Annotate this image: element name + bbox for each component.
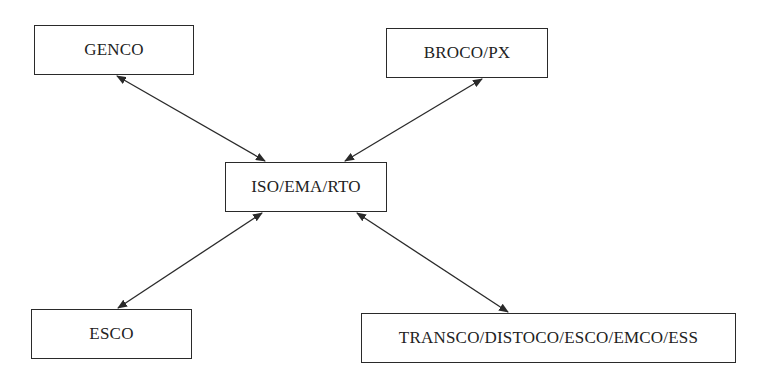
node-transco-group-label: TRANSCO/DISTOCO/ESCO/EMCO/ESS <box>399 328 698 348</box>
node-genco-label: GENCO <box>84 40 144 60</box>
edge-genco-iso <box>117 76 265 161</box>
diagram-canvas: GENCO BROCO/PX ISO/EMA/RTO ESCO TRANSCO/… <box>0 0 765 383</box>
node-broco-px-label: BROCO/PX <box>424 43 511 63</box>
edge-transco-iso <box>357 213 508 312</box>
edge-esco-iso <box>118 213 262 308</box>
node-esco-label: ESCO <box>89 324 133 344</box>
node-transco-group: TRANSCO/DISTOCO/ESCO/EMCO/ESS <box>361 313 736 363</box>
node-broco-px: BROCO/PX <box>386 28 548 78</box>
node-genco: GENCO <box>34 25 194 75</box>
node-esco: ESCO <box>31 309 192 359</box>
node-iso-ema-rto: ISO/EMA/RTO <box>225 162 387 212</box>
edge-broco-iso <box>345 79 482 161</box>
node-iso-ema-rto-label: ISO/EMA/RTO <box>251 177 361 197</box>
